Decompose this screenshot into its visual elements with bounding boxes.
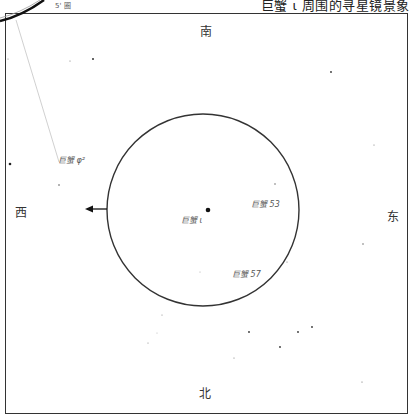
- guide-line: [16, 20, 59, 162]
- star: [7, 58, 8, 59]
- star-label-57: 巨蟹 57: [232, 268, 261, 279]
- star: [200, 272, 201, 273]
- star: [69, 60, 70, 61]
- star: [311, 326, 313, 328]
- star: [330, 71, 332, 73]
- star: [233, 357, 234, 358]
- star-label-53: 巨蟹 53: [251, 198, 280, 209]
- star: [147, 342, 148, 343]
- star: [248, 331, 250, 333]
- star: [161, 314, 162, 315]
- star: [92, 58, 94, 60]
- direction-north: 北: [199, 384, 211, 401]
- star-field: [0, 0, 412, 418]
- star: [58, 184, 60, 186]
- star-label-iota: 巨蟹 ι: [181, 214, 202, 225]
- star: [362, 243, 363, 244]
- direction-east: 东: [387, 207, 399, 224]
- star: [157, 333, 158, 334]
- star: [274, 183, 275, 184]
- star-label-phi2: 巨蟹 φ²: [58, 154, 85, 165]
- star: [9, 163, 12, 166]
- star: [297, 331, 299, 333]
- star-iota: [206, 208, 211, 213]
- finder-circle: [107, 114, 299, 306]
- star: [286, 261, 287, 262]
- star: [361, 381, 362, 382]
- arrow-head-icon: [85, 206, 93, 213]
- star: [373, 144, 374, 145]
- direction-west: 西: [15, 203, 27, 220]
- direction-south: 南: [200, 22, 212, 39]
- star: [279, 346, 281, 348]
